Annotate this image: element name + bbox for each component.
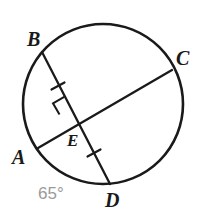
right-angle-square-icon [53,97,64,115]
point-label-c: C [176,48,189,68]
point-label-b: B [27,29,40,49]
arc-angle-label: 65° [38,185,64,202]
circle-outline [23,24,183,184]
point-label-a: A [12,147,25,167]
geometry-figure: B C A D E 65° [0,0,207,217]
point-label-e: E [67,132,78,149]
point-label-d: D [105,190,119,210]
